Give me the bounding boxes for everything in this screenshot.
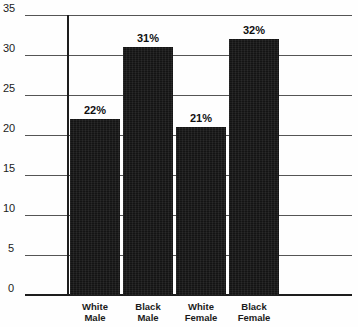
category-label-line: Black xyxy=(135,301,160,312)
bar-data-label: 21% xyxy=(176,112,226,124)
y-axis-tick-label: 10 xyxy=(3,203,23,214)
y-axis-spine xyxy=(67,15,69,296)
y-axis-tick-label: 20 xyxy=(3,123,23,134)
bar-data-label: 32% xyxy=(229,24,279,36)
category-label-line: Female xyxy=(222,312,286,323)
bar-chart: Percent 05101520253035 22%31%21%32% Whit… xyxy=(0,0,358,327)
y-axis-tick-label: 5 xyxy=(1,243,21,254)
y-axis-tick-label: 35 xyxy=(3,3,23,14)
gridline xyxy=(25,15,352,16)
bar-data-label: 31% xyxy=(123,32,173,44)
y-axis-tick-label: 0 xyxy=(1,283,21,294)
bar xyxy=(123,47,173,295)
category-label-line: White xyxy=(82,301,108,312)
x-axis-category-label: BlackFemale xyxy=(222,301,286,323)
gridline xyxy=(25,55,352,56)
y-axis-tick-label: 30 xyxy=(3,43,23,54)
category-label-line: White xyxy=(188,301,214,312)
bar xyxy=(70,119,120,295)
gridline xyxy=(25,95,352,96)
y-axis-tick-label: 15 xyxy=(3,163,23,174)
bar xyxy=(176,127,226,295)
y-axis-tick-label: 25 xyxy=(3,83,23,94)
category-label-line: Black xyxy=(241,301,266,312)
bar xyxy=(229,39,279,295)
bar-data-label: 22% xyxy=(70,104,120,116)
plot-area: 05101520253035 22%31%21%32% WhiteMaleBla… xyxy=(0,0,358,327)
